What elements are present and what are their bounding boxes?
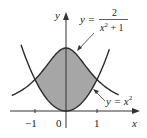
tick-label-0: 0 — [56, 117, 62, 129]
tick-label-1: 1 — [94, 117, 100, 129]
tick-label-neg1: −1 — [25, 117, 37, 129]
arrow-lower-head-icon — [93, 89, 99, 94]
lower-equation: y = x2 — [105, 94, 133, 107]
graph: y x −1 0 1 y = 2 x2 + 1 y = x2 — [0, 0, 147, 138]
svg-text:y =: y = — [79, 13, 95, 25]
svg-text:y = x2: y = x2 — [105, 94, 133, 107]
y-axis-label: y — [54, 9, 60, 21]
svg-text:x2 + 1: x2 + 1 — [99, 21, 124, 33]
upper-equation: y = 2 x2 + 1 — [79, 7, 128, 33]
x-axis-label: x — [131, 117, 137, 129]
arrow-upper-head-icon — [77, 45, 82, 51]
arrow-upper-line — [79, 33, 94, 49]
y-axis-arrow-icon — [63, 12, 69, 20]
upper-eq-numerator: 2 — [112, 7, 117, 18]
x-axis-arrow-icon — [132, 108, 140, 114]
